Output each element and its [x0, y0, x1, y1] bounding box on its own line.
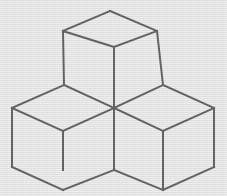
top-cube-top-face-upper-right-edge	[110, 11, 157, 31]
top-cube	[63, 11, 163, 108]
left-cube	[12, 85, 114, 190]
left-cube-bottom-left-edge	[12, 167, 63, 190]
cube-line-drawing	[0, 0, 227, 196]
left-cube-bottom-right-edge	[63, 170, 114, 190]
isometric-cube-figure	[0, 0, 227, 196]
right-cube-bottom-left-edge	[114, 170, 163, 190]
right-cube-top-front-left-edge	[114, 108, 163, 131]
left-cube-top-back-left-edge	[12, 85, 64, 108]
right-cube-top-front-right-edge	[163, 108, 214, 131]
top-cube-top-face-lower-left-edge	[63, 31, 114, 47]
right-cube	[114, 85, 214, 190]
top-cube-top-face-lower-right-edge	[114, 31, 157, 47]
right-cube-bottom-right-edge	[163, 167, 214, 190]
left-cube-top-back-right-edge	[64, 85, 114, 108]
top-cube-left-vertical-edge	[63, 31, 64, 85]
right-cube-top-back-left-edge	[114, 85, 163, 108]
top-cube-right-vertical-edge	[157, 31, 163, 85]
left-cube-top-front-right-edge	[63, 108, 114, 131]
right-cube-top-back-right-edge	[163, 85, 214, 108]
top-cube-top-face-upper-left-edge	[63, 11, 110, 31]
left-cube-top-front-left-edge	[12, 108, 63, 131]
